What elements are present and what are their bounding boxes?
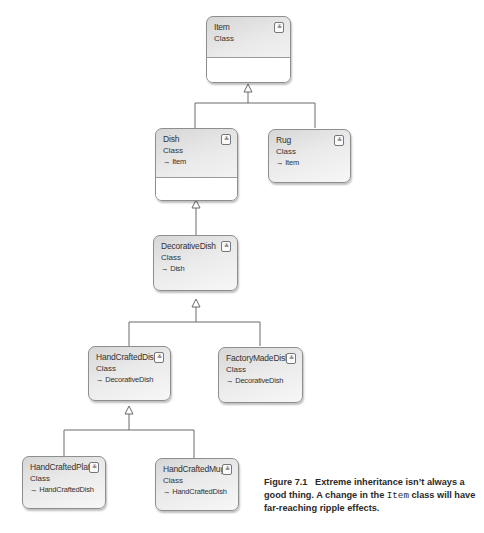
chevron-double-down-icon[interactable]: ≚ — [222, 464, 232, 475]
class-kind: Class — [276, 146, 344, 157]
class-kind: Class — [214, 33, 284, 44]
class-kind: Class — [30, 473, 99, 484]
class-kind: Class — [96, 363, 164, 374]
base-class: → HandCraftedDish — [163, 486, 232, 497]
generalization-arrow-icon — [192, 200, 200, 208]
chevron-double-down-icon[interactable]: ≚ — [221, 134, 231, 145]
members-compartment — [207, 57, 290, 82]
class-kind: Class — [163, 145, 231, 156]
figure-caption: Figure 7.1 Extreme inheritance isn’t alw… — [264, 476, 479, 515]
base-class: → Item — [276, 157, 344, 168]
generalization-arrow-icon — [244, 84, 252, 92]
base-class: → DecorativeDish — [96, 374, 164, 385]
figure-label: Figure 7.1 — [264, 477, 307, 487]
class-box-dish[interactable]: Dish Class → Item ≚ — [155, 128, 238, 201]
chevron-double-down-icon[interactable]: ≚ — [274, 22, 284, 33]
class-box-rug[interactable]: Rug Class → Item ≚ — [268, 129, 351, 183]
class-box-hand-crafted-dish[interactable]: HandCraftedDish Class → DecorativeDish ≚ — [88, 346, 171, 401]
class-box-hand-crafted-mug[interactable]: HandCraftedMug Class → HandCraftedDish ≚ — [155, 458, 239, 511]
members-compartment — [156, 177, 237, 200]
chevron-double-down-icon[interactable]: ≚ — [286, 353, 296, 364]
class-box-decorative-dish[interactable]: DecorativeDish Class → Dish ≚ — [153, 235, 238, 291]
class-box-hand-crafted-plate[interactable]: HandCraftedPlate Class → HandCraftedDish… — [22, 456, 106, 509]
class-box-factory-made-dish[interactable]: FactoryMadeDish Class → DecorativeDish ≚ — [218, 347, 303, 403]
class-kind: Class — [163, 475, 232, 486]
chevron-double-down-icon[interactable]: ≚ — [334, 135, 344, 146]
generalization-arrow-icon — [125, 406, 133, 414]
chevron-double-down-icon[interactable]: ≚ — [154, 352, 164, 363]
chevron-double-down-icon[interactable]: ≚ — [89, 462, 99, 473]
base-class: → DecorativeDish — [226, 375, 296, 386]
chevron-double-down-icon[interactable]: ≚ — [221, 241, 231, 252]
base-class: → Dish — [161, 263, 231, 274]
class-kind: Class — [226, 364, 296, 375]
base-class: → HandCraftedDish — [30, 484, 99, 495]
caption-code: Item — [387, 490, 409, 501]
base-class: → Item — [163, 156, 231, 167]
generalization-arrow-icon — [192, 299, 200, 307]
class-kind: Class — [161, 252, 231, 263]
class-box-item[interactable]: Item Class ≚ — [206, 16, 291, 83]
